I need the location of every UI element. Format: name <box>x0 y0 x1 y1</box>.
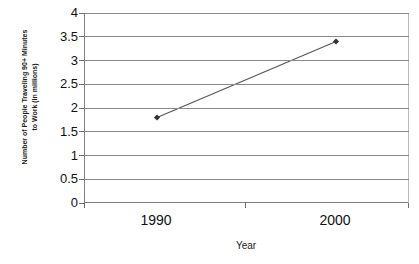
plot-area <box>84 13 408 203</box>
y-axis-tick <box>79 60 84 61</box>
x-axis-title: Year <box>84 240 408 251</box>
y-axis-tick <box>79 131 84 132</box>
y-axis-tick-label: 1 <box>36 149 78 162</box>
line-chart: 1990-2000 00.511.522.533.54 19902000 Num… <box>0 0 419 264</box>
y-axis-tick-label: 3 <box>36 54 78 67</box>
gridline <box>85 131 409 132</box>
y-axis-tick-label: 0.5 <box>36 172 78 185</box>
x-axis-tick <box>84 203 85 208</box>
y-axis-title-line-2: to Work (in millions) <box>30 0 40 197</box>
x-axis-tick-label: 1990 <box>126 213 186 228</box>
y-axis-tick-label: 1.5 <box>36 125 78 138</box>
x-axis-tick-label: 2000 <box>305 213 365 228</box>
y-axis-tick <box>79 36 84 37</box>
gridline <box>85 108 409 109</box>
x-axis-tick <box>408 203 409 208</box>
gridline <box>85 84 409 85</box>
gridline <box>85 36 409 37</box>
series-line <box>157 42 336 118</box>
gridline <box>85 13 409 14</box>
gridline <box>85 60 409 61</box>
y-axis-tick-label: 2 <box>36 101 78 114</box>
y-axis-tick <box>79 108 84 109</box>
gridline <box>85 155 409 156</box>
x-axis-tick <box>245 203 246 208</box>
y-axis-tick <box>79 84 84 85</box>
y-axis-tick <box>79 155 84 156</box>
y-axis-title: Number of People Traveling 90+ Minutes t… <box>20 0 40 197</box>
y-axis-tick <box>79 13 84 14</box>
data-point-marker <box>333 38 339 44</box>
data-point-marker <box>154 114 160 120</box>
y-axis-tick <box>79 179 84 180</box>
y-axis-title-line-1: Number of People Traveling 90+ Minutes <box>20 0 30 197</box>
y-axis-tick-label: 0 <box>36 196 78 209</box>
y-axis-tick-label: 4 <box>36 6 78 19</box>
gridline <box>85 179 409 180</box>
chart-title: 1990-2000 <box>84 0 408 1</box>
y-axis-tick-label: 2.5 <box>36 77 78 90</box>
y-axis-tick-label: 3.5 <box>36 30 78 43</box>
